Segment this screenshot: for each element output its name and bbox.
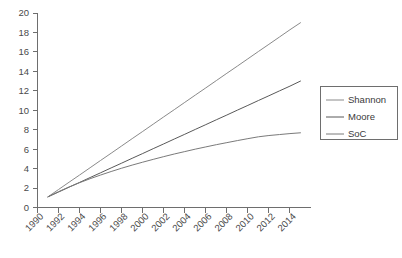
legend-label-soc: SoC — [348, 128, 367, 139]
y-tick-label: 12 — [18, 85, 29, 96]
x-tick-label: 1996 — [86, 211, 109, 234]
x-tick-label: 2006 — [191, 211, 214, 234]
chart-figure: 02468101214161820 1990199219941996199820… — [0, 0, 402, 258]
x-tick-label: 1990 — [23, 211, 46, 234]
series-line-moore — [48, 81, 300, 197]
x-tick-label: 2010 — [233, 211, 256, 234]
chart-legend: ShannonMooreSoC — [321, 87, 398, 140]
x-tick-label: 2000 — [128, 211, 151, 234]
series-line-soc — [48, 133, 300, 197]
x-axis-tick-labels: 1990199219941996199820002002200420062008… — [23, 208, 298, 234]
y-tick-label: 16 — [18, 46, 29, 57]
x-tick-label: 2012 — [254, 211, 277, 234]
x-tick-label: 2002 — [149, 211, 172, 234]
y-tick-label: 14 — [18, 66, 29, 77]
legend-label-shannon: Shannon — [348, 94, 386, 105]
x-tick-label: 2014 — [275, 211, 298, 234]
y-tick-label: 0 — [24, 202, 29, 213]
y-tick-label: 20 — [18, 7, 29, 18]
y-tick-label: 8 — [24, 124, 29, 135]
y-tick-label: 4 — [24, 163, 29, 174]
legend-label-moore: Moore — [348, 111, 375, 122]
y-tick-label: 2 — [24, 182, 29, 193]
x-tick-label: 1998 — [107, 211, 130, 234]
y-tick-label: 6 — [24, 144, 29, 155]
y-axis-tick-labels: 02468101214161820 — [18, 7, 37, 213]
series-line-shannon — [48, 23, 300, 197]
x-tick-label: 2004 — [170, 211, 193, 234]
x-tick-label: 1994 — [65, 211, 88, 234]
x-tick-label: 1992 — [44, 211, 67, 234]
line-chart: 02468101214161820 1990199219941996199820… — [0, 0, 402, 258]
y-tick-label: 10 — [18, 105, 29, 116]
x-tick-label: 2008 — [212, 211, 235, 234]
y-tick-label: 18 — [18, 27, 29, 38]
data-series-group — [48, 23, 300, 197]
